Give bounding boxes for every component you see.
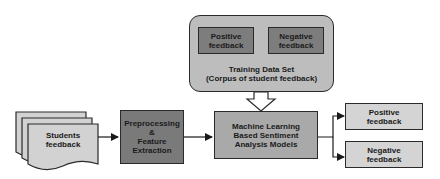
arrow-model-to-positive xyxy=(318,116,344,137)
training-title-line2: (Corpus of student feedback) xyxy=(206,74,317,83)
preprocessing-line1: Preprocessing xyxy=(124,119,180,128)
training-negative-box: Negative feedback xyxy=(268,27,324,54)
preprocessing-line2: & xyxy=(149,128,155,137)
output-positive-line1: Positive xyxy=(369,108,400,117)
hollow-down-arrow-icon xyxy=(247,92,275,111)
training-positive-line1: Positive xyxy=(211,32,242,41)
output-negative-line1: Negative xyxy=(367,146,400,155)
training-title-line1: Training Data Set xyxy=(229,65,294,74)
input-line1: Students xyxy=(46,131,80,140)
input-line2: feedback xyxy=(46,140,81,149)
training-positive-line2: feedback xyxy=(209,41,244,50)
output-negative-line2: feedback xyxy=(367,155,402,164)
output-positive-line2: feedback xyxy=(367,117,402,126)
model-line3: Analysis Models xyxy=(235,140,298,149)
preprocessing-box: Preprocessing & Feature Extraction xyxy=(120,110,184,164)
preprocessing-line4: Extraction xyxy=(132,146,171,155)
output-positive-box: Positive feedback xyxy=(345,103,423,130)
output-negative-box: Negative feedback xyxy=(345,141,423,168)
arrow-model-to-negative xyxy=(333,137,344,157)
training-negative-line1: Negative xyxy=(279,32,312,41)
model-line1: Machine Learning xyxy=(232,122,300,131)
students-feedback-label: Students feedback xyxy=(28,128,98,152)
model-line2: Based Sentiment xyxy=(234,131,299,140)
preprocessing-line3: Feature xyxy=(138,137,167,146)
training-data-set-label: Training Data Set (Corpus of student fee… xyxy=(189,63,334,85)
ml-model-box: Machine Learning Based Sentiment Analysi… xyxy=(214,111,318,159)
training-positive-box: Positive feedback xyxy=(198,27,254,54)
training-negative-line2: feedback xyxy=(279,41,314,50)
